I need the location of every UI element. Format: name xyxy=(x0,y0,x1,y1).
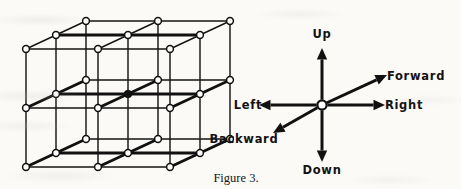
lattice-edge xyxy=(200,80,230,94)
lattice-edge xyxy=(98,94,128,108)
lattice-node xyxy=(53,32,60,39)
axis-label-forward: Forward xyxy=(387,69,445,83)
lattice-edge xyxy=(98,153,128,167)
lattice-node xyxy=(83,136,90,143)
lattice-edge xyxy=(200,21,230,35)
lattice-node xyxy=(83,18,90,25)
axis-label-left: Left xyxy=(234,98,262,112)
lattice-edge xyxy=(26,35,56,49)
lattice-node xyxy=(197,32,204,39)
axis-origin-marker xyxy=(317,100,326,109)
lattice-node xyxy=(125,32,132,39)
lattice-edge xyxy=(128,21,158,35)
lattice-edge xyxy=(98,35,128,49)
lattice-edge xyxy=(128,139,158,153)
lattice-edge xyxy=(170,35,200,49)
lattice-edge xyxy=(56,21,86,35)
axis-label-up: Up xyxy=(313,27,332,41)
lattice-node xyxy=(155,77,162,84)
axis-label-down: Down xyxy=(302,163,341,177)
lattice-node xyxy=(167,105,174,112)
lattice-node xyxy=(23,46,30,53)
lattice-node xyxy=(23,164,30,171)
axis-arrowhead-right xyxy=(374,100,386,110)
lattice-node xyxy=(53,150,60,157)
lattice-node xyxy=(155,136,162,143)
lattice-edge xyxy=(170,153,200,167)
lattice-node xyxy=(23,105,30,112)
axis-label-right: Right xyxy=(385,98,423,112)
cube-lattice xyxy=(23,18,234,171)
lattice-node xyxy=(53,91,60,98)
axis-arrowhead-down xyxy=(317,151,327,163)
lattice-edge xyxy=(56,139,86,153)
lattice-edge xyxy=(56,80,86,94)
lattice-edge xyxy=(26,94,56,108)
lattice-node xyxy=(95,105,102,112)
direction-axes: UpDownLeftRightForwardBackward xyxy=(210,27,446,177)
lattice-node xyxy=(125,150,132,157)
axis-label-backward: Backward xyxy=(210,132,279,146)
figure-3-illustration: UpDownLeftRightForwardBackward Figure 3. xyxy=(0,0,461,189)
lattice-edge xyxy=(170,94,200,108)
figure-canvas: UpDownLeftRightForwardBackward Figure 3. xyxy=(0,0,461,189)
lattice-edge xyxy=(128,80,158,94)
axis-arrowhead-up xyxy=(317,48,327,60)
lattice-node xyxy=(167,46,174,53)
axis-shaft-backward xyxy=(283,108,317,128)
lattice-node xyxy=(155,18,162,25)
figure-caption: Figure 3. xyxy=(213,171,258,185)
lattice-node xyxy=(227,18,234,25)
lattice-node xyxy=(95,46,102,53)
lattice-node xyxy=(95,164,102,171)
lattice-node xyxy=(125,91,132,98)
lattice-node xyxy=(83,77,90,84)
lattice-node xyxy=(227,77,234,84)
lattice-node xyxy=(197,150,204,157)
lattice-edge xyxy=(26,153,56,167)
lattice-node xyxy=(167,164,174,171)
lattice-node xyxy=(197,91,204,98)
axis-shaft-forward xyxy=(327,80,377,103)
